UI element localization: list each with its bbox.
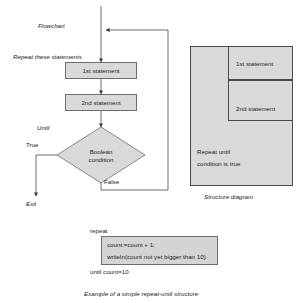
flow-line-true-to-exit (36, 155, 57, 196)
flowchart-statement-2-box: 2nd statement (65, 94, 137, 111)
structure-diagram-statement-2-box (228, 80, 293, 121)
figure-caption: Example of a simple repeat-until structu… (84, 290, 198, 297)
structure-diagram-loop-line-2: condition is true (197, 160, 240, 167)
flowchart-false-label: False (104, 178, 119, 185)
decision-text-line-2: condition (80, 156, 122, 164)
flowchart-until-label: Until (37, 124, 49, 131)
figure-repeat-until-structure: Flowchart Repeat these statements 1st st… (0, 0, 303, 303)
decision-text-line-1: Boolean (80, 148, 122, 156)
flowchart-title: Flowchart (38, 22, 65, 29)
flowchart-statement-1-label: 1st statement (82, 67, 119, 74)
structure-diagram-loop-line-1: Repeat until (197, 148, 230, 155)
code-line-2: writeln(count not yet bigger than 10) (107, 253, 206, 260)
decision-text: Boolean condition (80, 148, 122, 164)
code-keyword-repeat: repeat (90, 227, 108, 234)
flowchart-exit-label: Exit (26, 200, 36, 207)
flowchart-entry-label: Repeat these statements (13, 53, 82, 60)
structure-diagram-statement-1-label: 1st statement (236, 60, 273, 67)
flowchart-statement-2-label: 2nd statement (81, 99, 120, 106)
code-keyword-until: until count=10 (90, 268, 129, 275)
code-line-1: count:=count + 1; (107, 241, 155, 248)
flowchart-statement-1-box: 1st statement (65, 62, 137, 79)
flowchart-true-label: True (26, 141, 39, 148)
structure-diagram-caption: Structure diagram (204, 193, 253, 200)
structure-diagram-statement-2-label: 2nd statement (236, 105, 275, 112)
